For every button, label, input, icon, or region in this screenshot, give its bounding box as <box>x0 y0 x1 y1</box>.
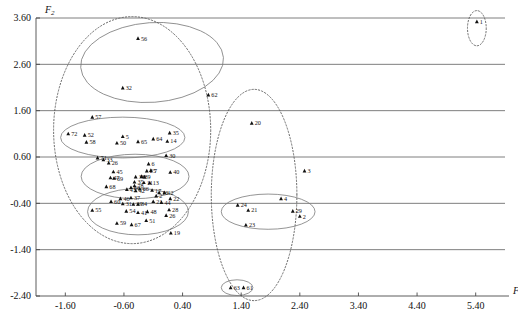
data-point: 26 <box>164 212 175 219</box>
point-label: 35 <box>173 129 179 136</box>
x-axis-label: F1 <box>512 285 518 298</box>
data-point: 4 <box>279 195 287 202</box>
point-label: 32 <box>126 84 132 91</box>
point-marker-triangle <box>66 132 70 136</box>
data-point: 72 <box>66 130 77 137</box>
point-label: 72 <box>71 130 77 137</box>
point-marker-triangle <box>242 286 246 290</box>
point-marker-triangle <box>244 223 248 227</box>
point-label: 65 <box>141 138 147 145</box>
data-point: 61 <box>242 284 253 291</box>
point-marker-triangle <box>83 133 87 137</box>
data-point: 59 <box>115 219 126 226</box>
data-point: 20 <box>250 119 261 126</box>
point-label: 59 <box>120 219 126 226</box>
point-marker-triangle <box>475 20 479 24</box>
point-marker-triangle <box>129 196 133 200</box>
point-marker-triangle <box>124 209 128 213</box>
point-label: 48 <box>150 208 156 215</box>
data-point: 14 <box>165 137 176 144</box>
x-tick-label--0.60: -0.60 <box>114 300 135 311</box>
data-point: 64 <box>151 135 162 142</box>
point-label: 34 <box>141 200 147 207</box>
data-point: 19 <box>169 229 180 236</box>
point-label: 2 <box>303 213 306 220</box>
point-marker-triangle <box>136 140 140 144</box>
point-label: 56 <box>141 35 147 42</box>
data-point: 57 <box>90 113 101 120</box>
point-label: 13 <box>153 179 159 186</box>
point-marker-triangle <box>136 211 140 215</box>
point-label: 30 <box>169 152 175 159</box>
cluster-top-solid <box>78 18 226 107</box>
point-marker-triangle <box>164 213 168 217</box>
x-tick-label-5.40: 5.40 <box>467 300 485 311</box>
point-label: 26 <box>169 212 175 219</box>
point-marker-triangle <box>168 131 172 135</box>
point-label: 55 <box>95 206 101 213</box>
data-point: 52 <box>83 131 94 138</box>
scatter-plot-figure: 1563262572072523555814646550307133266372… <box>0 0 518 331</box>
data-point: 56 <box>136 35 147 42</box>
point-label: 67 <box>135 221 141 228</box>
point-label: 58 <box>89 138 95 145</box>
data-point: 40 <box>168 168 179 175</box>
point-label: 23 <box>249 221 255 228</box>
data-point: 55 <box>90 206 101 213</box>
point-marker-triangle <box>111 170 115 174</box>
tick-labels-group: -1.60-0.600.401.402.403.404.405.403.602.… <box>10 12 484 311</box>
point-label: 14 <box>170 137 176 144</box>
data-point: 50 <box>115 139 126 146</box>
data-point: 68 <box>104 183 115 190</box>
point-marker-triangle <box>144 218 148 222</box>
point-marker-triangle <box>151 199 155 203</box>
point-marker-triangle <box>298 214 302 218</box>
data-point: 51 <box>144 217 155 224</box>
point-label: 51 <box>149 217 155 224</box>
x-tick-label--1.60: -1.60 <box>55 300 76 311</box>
point-marker-triangle <box>147 162 151 166</box>
point-marker-triangle <box>136 36 140 40</box>
y-tick-label--0.40: -0.40 <box>10 198 31 209</box>
point-label: 3 <box>308 167 311 174</box>
point-label: 40 <box>173 168 179 175</box>
point-label: 5 <box>126 133 129 140</box>
point-label: 20 <box>255 119 261 126</box>
x-tick-label-1.40: 1.40 <box>232 300 250 311</box>
point-label: 50 <box>120 139 126 146</box>
point-marker-triangle <box>164 154 168 158</box>
y-tick-label-0.60: 0.60 <box>14 151 32 162</box>
cluster-ellipses-group <box>54 11 487 301</box>
point-label: 4 <box>284 195 287 202</box>
point-label: 31 <box>126 200 132 207</box>
point-label: 68 <box>109 183 115 190</box>
point-label: 21 <box>251 206 257 213</box>
point-marker-triangle <box>303 169 307 173</box>
point-marker-triangle <box>165 139 169 143</box>
data-point: 3 <box>303 167 311 174</box>
point-label: 25 <box>150 167 156 174</box>
point-label: 19 <box>174 229 180 236</box>
point-label: 24 <box>241 201 247 208</box>
point-label: 52 <box>88 131 94 138</box>
point-marker-triangle <box>291 209 295 213</box>
data-point: 62 <box>206 91 217 98</box>
y-tick-label-3.60: 3.60 <box>14 12 32 23</box>
data-point: 32 <box>121 84 132 91</box>
gridlines-group <box>36 18 505 250</box>
y-tick-label--2.40: -2.40 <box>10 290 31 301</box>
x-tick-label-0.40: 0.40 <box>174 300 192 311</box>
x-tick-label-3.40: 3.40 <box>350 300 368 311</box>
point-marker-triangle <box>121 135 125 139</box>
y-tick-label-2.60: 2.60 <box>14 59 32 70</box>
point-label: 54 <box>129 207 135 214</box>
point-marker-triangle <box>109 176 113 180</box>
data-point: 29 <box>291 207 302 214</box>
plot-canvas: 1563262572072523555814646550307133266372… <box>0 0 518 331</box>
point-marker-triangle <box>279 197 283 201</box>
point-marker-triangle <box>115 141 119 145</box>
point-marker-triangle <box>131 202 135 206</box>
point-marker-triangle <box>115 221 119 225</box>
point-label: 1 <box>480 18 483 25</box>
point-label: 60 <box>114 198 120 205</box>
